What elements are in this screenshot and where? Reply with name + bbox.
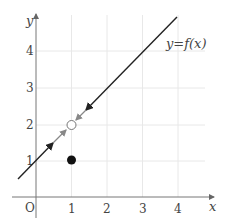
right-segment xyxy=(76,17,177,120)
y-tick-label: 3 xyxy=(26,81,34,95)
x-tick-label: 3 xyxy=(139,202,147,216)
y-axis-label: y xyxy=(25,13,34,28)
chart: y x O 1 2 3 4 1 2 3 4 y=f(x) xyxy=(0,0,231,223)
open-point xyxy=(67,121,76,130)
x-tick-label: 1 xyxy=(68,202,76,216)
x-axis-label: x xyxy=(209,199,217,214)
origin-label: O xyxy=(25,201,35,215)
y-tick-label: 4 xyxy=(26,44,34,58)
y-tick-label: 2 xyxy=(26,118,34,132)
filled-point xyxy=(67,156,76,165)
x-tick-label: 4 xyxy=(174,202,182,216)
function-label: y=f(x) xyxy=(165,36,207,51)
x-tick-label: 2 xyxy=(103,202,111,216)
